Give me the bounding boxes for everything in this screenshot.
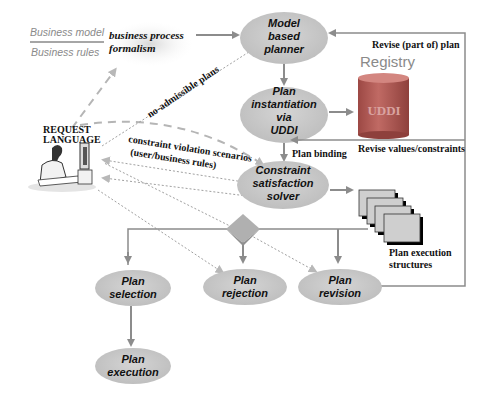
node-plan-selection[interactable]: Plan selection [95, 270, 171, 306]
solver-label-1: Constraint [256, 164, 312, 176]
instantiation-label-4: UDDI [271, 124, 299, 136]
execution-label-1: Plan [121, 353, 145, 365]
solver-label-2: satisfaction [252, 177, 313, 189]
rejection-label-2: rejection [222, 287, 268, 299]
revision-label-2: revision [319, 287, 361, 299]
uddi-db-label: UDDI [367, 103, 400, 118]
planner-label-3: planner [263, 43, 304, 55]
business-process-cloud: business process formalism [108, 22, 192, 66]
edge-actor-to-cloud [72, 70, 115, 128]
execution-label-2: execution [107, 366, 159, 378]
business-model-label: Business model [30, 26, 105, 38]
instantiation-label-3: via [276, 111, 291, 123]
revision-label-1: Plan [328, 274, 352, 286]
business-rules-label: Business rules [31, 46, 100, 58]
revise-plan-label: Revise (part of) plan [372, 39, 460, 51]
instantiation-label-1: Plan [272, 85, 296, 97]
revise-values-label: Revise values/constraints [358, 143, 465, 154]
edge-decision-to-revision [250, 235, 315, 271]
selection-label-2: selection [109, 288, 157, 300]
structures-label-2: structures [389, 259, 432, 270]
edge-decision-to-actor [104, 163, 232, 227]
node-model-based-planner[interactable]: Model based planner [240, 12, 328, 64]
node-constraint-solver[interactable]: Constraint satisfaction solver [237, 161, 329, 209]
selection-label-1: Plan [121, 275, 145, 287]
planner-label-1: Model [268, 17, 301, 29]
business-legend: Business model Business rules [30, 26, 105, 58]
registry-title: Registry [360, 53, 416, 70]
actor-label-line2: LANGUAGE [43, 134, 101, 145]
instantiation-label-2: instantiation [251, 98, 317, 110]
cloud-label-line1: business process [109, 29, 184, 41]
request-language-actor: REQUEST LANGUAGE [28, 124, 101, 192]
registry-uddi: Registry UDDI [358, 53, 416, 139]
edge-actor-to-rejection [98, 190, 222, 272]
node-plan-revision[interactable]: Plan revision [298, 269, 382, 305]
cloud-label-line2: formalism [109, 42, 156, 54]
solver-label-3: solver [267, 190, 300, 202]
edge-solver-to-actor-2 [104, 178, 255, 197]
person-at-computer-icon [28, 143, 96, 192]
decision-diamond [226, 214, 260, 246]
node-plan-execution[interactable]: Plan execution [95, 348, 171, 384]
planner-label-2: based [268, 30, 300, 42]
node-plan-rejection[interactable]: Plan rejection [203, 269, 287, 305]
rejection-label-1: Plan [233, 274, 257, 286]
plan-execution-structures: Plan execution structures [359, 190, 452, 270]
architecture-diagram: Business model Business rules business p… [0, 0, 490, 404]
no-admissible-label: no-admissible plans [145, 63, 221, 119]
structures-label-1: Plan execution [389, 247, 452, 258]
plan-binding-label: Plan binding [292, 148, 347, 159]
node-plan-instantiation[interactable]: Plan instantiation via UDDI [240, 85, 328, 143]
stacked-documents-icon [359, 190, 423, 245]
